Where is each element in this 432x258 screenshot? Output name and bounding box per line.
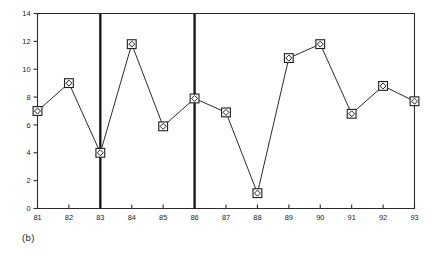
line-chart: 0246810121481828384858687888990919293 (0, 0, 432, 258)
x-tick-label: 82 (65, 213, 73, 222)
x-tick-label: 88 (253, 213, 261, 222)
data-series-line (38, 44, 415, 193)
x-tick-label: 89 (285, 213, 293, 222)
x-tick-label: 81 (33, 213, 41, 222)
x-tick-label: 87 (222, 213, 230, 222)
x-tick-label: 92 (379, 213, 387, 222)
x-tick-label: 83 (96, 213, 104, 222)
y-tick-label: 6 (26, 121, 30, 130)
y-tick-label: 10 (22, 65, 30, 74)
y-tick-label: 2 (26, 176, 30, 185)
x-tick-label: 85 (159, 213, 167, 222)
y-tick-label: 8 (26, 93, 30, 102)
figure-caption: (b) (22, 232, 35, 243)
x-tick-label: 93 (410, 213, 418, 222)
x-tick-label: 91 (348, 213, 356, 222)
x-tick-label: 86 (190, 213, 198, 222)
y-tick-label: 14 (22, 9, 30, 18)
figure-panel: 0246810121481828384858687888990919293 (b… (0, 0, 432, 258)
x-tick-label: 90 (316, 213, 324, 222)
y-tick-label: 0 (26, 204, 30, 213)
x-tick-label: 84 (128, 213, 136, 222)
y-tick-label: 12 (22, 37, 30, 46)
y-tick-label: 4 (26, 148, 30, 157)
